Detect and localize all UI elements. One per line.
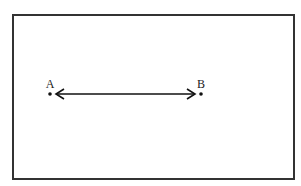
double-arrow-line: [56, 89, 195, 99]
point-b-label: B: [197, 78, 205, 90]
point-a-dot: [48, 92, 52, 96]
point-a-label: A: [46, 78, 55, 90]
point-b-dot: [199, 92, 203, 96]
line-ab-figure: A B: [0, 0, 301, 186]
line-diagram: [0, 0, 301, 186]
